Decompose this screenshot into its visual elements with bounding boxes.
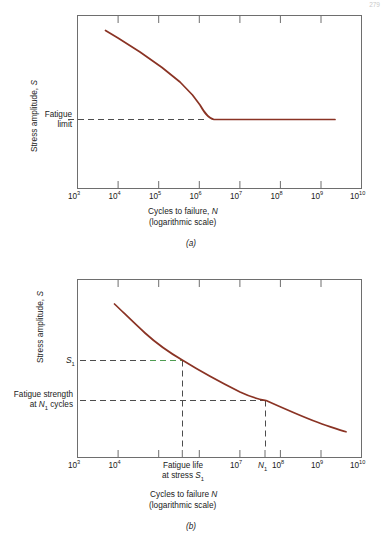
y-axis-label-b: Stress amplitude, S [36, 291, 45, 363]
x-axis-title-a-line1: Cycles to failure, N [148, 207, 218, 216]
plot-frame-b [78, 280, 362, 458]
s1-label: S1 [66, 356, 75, 365]
sn-curve-a [106, 31, 336, 120]
x-tick-a-7: 1010 [350, 192, 365, 201]
fatigue-limit-label: Fatiguelimit [26, 110, 72, 130]
x-axis-title-a-line2: (logarithmic scale) [149, 218, 216, 227]
figure-b: Stress amplitude, S S1 Fatigue strengtha… [0, 258, 384, 543]
fatigue-strength-label: Fatigue strengthat N1 cycles [3, 390, 73, 410]
x-tick-a-4: 107 [230, 192, 242, 201]
x-axis-title-b-line1: Cycles to failure N [150, 490, 217, 499]
x-tick-b-1: 104 [109, 461, 121, 470]
sn-curve-b [115, 304, 347, 432]
x-tick-a-3: 106 [190, 192, 202, 201]
caption-a: (a) [186, 239, 196, 248]
top-ticks-a [118, 16, 321, 24]
x-tick-a-5: 108 [271, 192, 283, 201]
x-tick-b-n1: N1 [258, 461, 267, 472]
x-tick-b-7: 1010 [350, 461, 365, 470]
x-tick-a-6: 109 [311, 192, 323, 201]
x-tick-a-1: 104 [109, 192, 121, 201]
bottom-ticks-a [118, 181, 321, 189]
x-axis-title-b-line2: (logarithmic scale) [149, 501, 216, 510]
bottom-ticks-b [118, 450, 321, 458]
x-tick-b-4: 107 [230, 461, 242, 470]
x-tick-a-2: 105 [149, 192, 161, 201]
figure-a: Stress amplitude, S Fatiguelimit 103 104… [0, 0, 384, 258]
x-tick-b-0: 103 [68, 461, 80, 470]
x-tick-b-6: 109 [311, 461, 323, 470]
x-tick-b-5: 108 [272, 461, 284, 470]
top-ticks-b [118, 280, 321, 288]
x-tick-b-fatigue-life: Fatigue lifeat stress S1 [152, 461, 214, 481]
x-tick-a-0: 103 [68, 192, 80, 201]
caption-b: (b) [186, 522, 196, 531]
plot-frame-a [78, 16, 362, 189]
